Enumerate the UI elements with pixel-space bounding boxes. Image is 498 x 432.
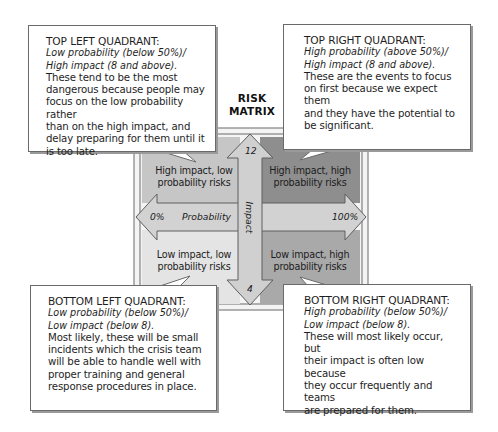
callout-body-line: focus on the low probability rather (46, 96, 205, 121)
callout-title: TOP RIGHT QUADRANT: (304, 34, 460, 46)
callout-body-line: These will most likely occur, but (304, 331, 460, 356)
impact-axis-label: Impact (244, 194, 255, 242)
diagram-title: RISK MATRIX (224, 92, 280, 118)
diagram-title-line2: MATRIX (224, 105, 280, 118)
probability-min-label: 0% (150, 211, 165, 222)
quadrant-label-line: Low impact, high (262, 249, 358, 261)
quadrant-label-line: probability risks (148, 261, 240, 273)
callout-subtitle: High probability (below 50%)/ (304, 306, 460, 318)
callout-body-line: These tend to be the most (46, 72, 205, 84)
quadrant-label-line: High impact, low (148, 165, 240, 177)
quadrant-label-line: probability risks (262, 261, 358, 273)
callout-body-line: are prepared for them. (304, 405, 460, 417)
callout-body-line: and they have the potential to (304, 108, 460, 120)
callout-body-line: response procedures in place. (48, 381, 206, 393)
callout-body-line: be significant. (304, 120, 460, 132)
probability-max-label: 100% (332, 211, 358, 222)
quadrant-label-line: probability risks (262, 177, 358, 189)
callout-subtitle: High impact (8 and above). (46, 60, 205, 72)
callout-title: BOTTOM LEFT QUADRANT: (48, 295, 206, 307)
callout-body-line: will be able to handle well with (48, 356, 206, 368)
callout-body-line: their impact is often low because (304, 355, 460, 380)
quadrant-label-bottom-left: Low impact, low probability risks (148, 249, 240, 273)
callout-bottom-right: BOTTOM RIGHT QUADRANT: High probability … (283, 284, 471, 411)
callout-body-line: on first because we expect them (304, 83, 460, 108)
callout-body-line: incidents which the crisis team (48, 344, 206, 356)
callout-body-line: than on the high impact, and (46, 121, 205, 133)
quadrant-label-line: High impact, high (262, 165, 358, 177)
callout-body-line: is too late. (46, 146, 205, 158)
quadrant-label-bottom-right: Low impact, high probability risks (262, 249, 358, 273)
quadrant-label-line: probability risks (148, 177, 240, 189)
diagram-title-line1: RISK (224, 92, 280, 105)
callout-bottom-left: BOTTOM LEFT QUADRANT: Low probability (b… (30, 285, 217, 411)
callout-subtitle: High impact (8 and above). (304, 59, 460, 71)
callout-title: BOTTOM RIGHT QUADRANT: (304, 294, 460, 306)
probability-axis-label: Probability (182, 211, 231, 222)
callout-top-left: TOP LEFT QUADRANT: Low probability (belo… (28, 25, 216, 152)
callout-top-right: TOP RIGHT QUADRANT: High probability (ab… (283, 24, 471, 150)
impact-max-label: 12 (245, 145, 257, 156)
callout-body-line: they occur frequently and teams (304, 380, 460, 405)
callout-body-line: proper training and general (48, 369, 206, 381)
callout-subtitle: Low impact (below 8). (304, 319, 460, 331)
callout-subtitle: Low impact (below 8). (48, 320, 206, 332)
callout-subtitle: Low probability (below 50%)/ (46, 47, 205, 59)
callout-subtitle: Low probability (below 50%)/ (48, 307, 206, 319)
impact-min-label: 4 (247, 283, 253, 294)
callout-body-line: Most likely, these will be small (48, 332, 206, 344)
quadrant-label-line: Low impact, low (148, 249, 240, 261)
callout-body-line: These are the events to focus (304, 71, 460, 83)
callout-body-line: dangerous because people may (46, 84, 205, 96)
quadrant-label-top-left: High impact, low probability risks (148, 165, 240, 189)
callout-title: TOP LEFT QUADRANT: (46, 35, 205, 47)
callout-body-line: delay preparing for them until it (46, 133, 205, 145)
quadrant-label-top-right: High impact, high probability risks (262, 165, 358, 189)
callout-subtitle: High probability (above 50%)/ (304, 46, 460, 58)
